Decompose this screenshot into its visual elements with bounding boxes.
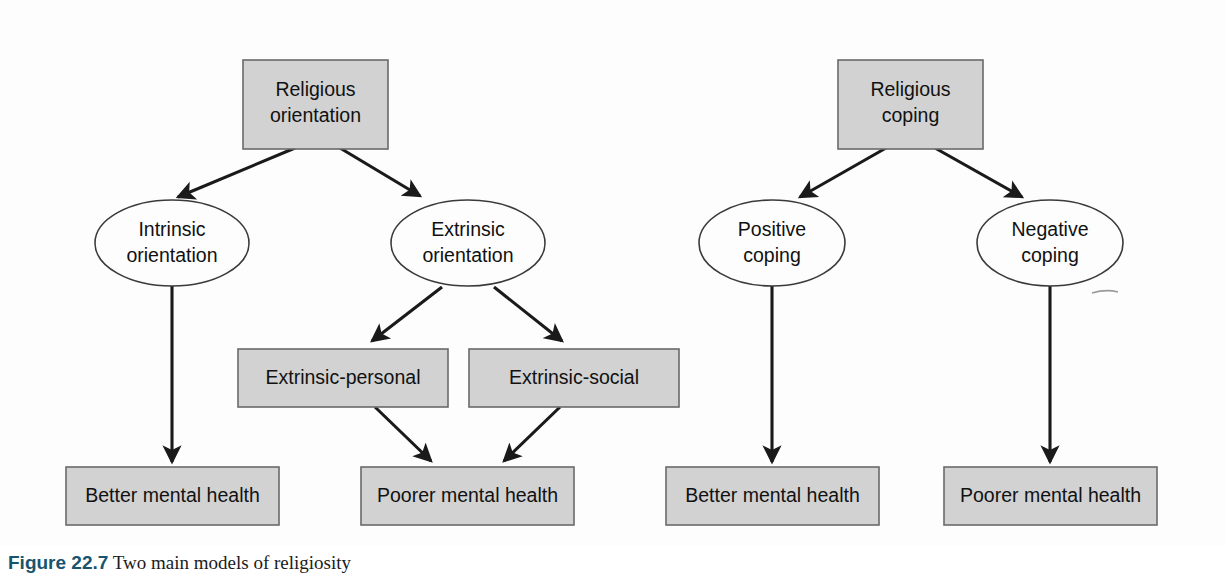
node-better-mental-health-left[interactable]: Better mental health bbox=[66, 467, 279, 525]
diagram-canvas: Religious orientation Intrinsic orientat… bbox=[0, 0, 1225, 545]
edge-extrinsic-orientation-to-extrinsic-social bbox=[494, 287, 562, 341]
edge-religious-orientation-to-extrinsic bbox=[340, 148, 420, 196]
node-religious-coping[interactable]: Religious coping bbox=[838, 60, 983, 149]
node-extrinsic-orientation[interactable]: Extrinsic orientation bbox=[391, 200, 545, 286]
node-better-mental-health-right[interactable]: Better mental health bbox=[666, 467, 879, 525]
edge-religious-coping-to-negative-coping bbox=[935, 148, 1022, 197]
edge-extrinsic-orientation-to-extrinsic-personal bbox=[372, 287, 442, 341]
node-negative-coping[interactable]: Negative coping bbox=[977, 200, 1123, 286]
node-positive-coping[interactable]: Positive coping bbox=[699, 200, 845, 286]
figure-caption: Figure 22.7 Two main models of religiosi… bbox=[0, 545, 1225, 574]
node-poorer-mental-health-right[interactable]: Poorer mental health bbox=[944, 467, 1157, 525]
stray-pencil-mark bbox=[1092, 291, 1118, 293]
figure-caption-body: Two main models of religiosity bbox=[113, 552, 351, 573]
edge-religious-orientation-to-intrinsic bbox=[178, 148, 295, 197]
node-intrinsic-orientation[interactable]: Intrinsic orientation bbox=[95, 200, 249, 286]
node-religious-orientation[interactable]: Religious orientation bbox=[243, 60, 388, 149]
node-poorer-mental-health-left[interactable]: Poorer mental health bbox=[361, 467, 574, 525]
edge-extrinsic-personal-to-poorer-mental-health bbox=[375, 407, 431, 461]
figure-root: Religious orientation Intrinsic orientat… bbox=[0, 0, 1225, 574]
figure-caption-number: Figure 22.7 bbox=[8, 552, 108, 573]
religiosity-models-diagram: Religious orientation Intrinsic orientat… bbox=[0, 0, 1225, 545]
node-extrinsic-social[interactable]: Extrinsic-social bbox=[469, 349, 679, 407]
figure-caption-text: Figure 22.7 Two main models of religiosi… bbox=[8, 552, 351, 574]
edge-religious-coping-to-positive-coping bbox=[800, 148, 886, 197]
node-extrinsic-personal[interactable]: Extrinsic-personal bbox=[238, 349, 448, 407]
edge-extrinsic-social-to-poorer-mental-health bbox=[504, 407, 560, 461]
